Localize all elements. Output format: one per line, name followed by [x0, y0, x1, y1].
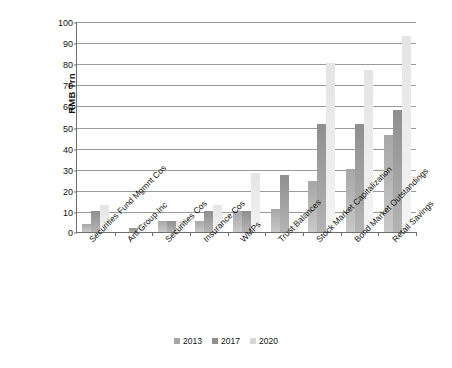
x-tick-mark [190, 232, 191, 236]
legend-swatch-icon [174, 338, 180, 344]
bar-2017 [355, 124, 364, 232]
bar-group [152, 22, 190, 232]
bar-group [265, 22, 303, 232]
bar-2013 [271, 209, 280, 232]
y-tick-label-50: 50 [63, 124, 73, 134]
x-tick-mark [416, 232, 417, 236]
x-axis-labels: Securities Fund Mgmnt CosAnt Group IncSe… [76, 237, 416, 327]
bar-2020 [326, 63, 335, 232]
bar-group [303, 22, 341, 232]
x-tick-mark [378, 232, 379, 236]
y-tick-label-90: 90 [63, 39, 73, 49]
y-tick-label-10: 10 [63, 208, 73, 218]
bar-2013 [82, 224, 91, 232]
legend-label: 2020 [259, 336, 278, 346]
bar-2013 [158, 221, 167, 232]
x-tick-mark [265, 232, 266, 236]
y-tick-label-100: 100 [58, 18, 73, 28]
legend-swatch-icon [250, 338, 256, 344]
legend-item-2017[interactable]: 2017 [212, 336, 240, 346]
bar-2020 [364, 70, 373, 232]
y-tick-mark-0 [74, 233, 77, 234]
y-tick-label-0: 0 [68, 228, 73, 238]
legend-item-2013[interactable]: 2013 [174, 336, 202, 346]
legend-label: 2013 [183, 336, 202, 346]
bar-2013 [195, 221, 204, 232]
x-tick-mark [228, 232, 229, 236]
legend-label: 2017 [221, 336, 240, 346]
x-tick-mark [152, 232, 153, 236]
y-tick-label-60: 60 [63, 102, 73, 112]
y-tick-label-70: 70 [63, 81, 73, 91]
bar-2017 [317, 124, 326, 232]
x-tick-mark [303, 232, 304, 236]
legend-swatch-icon [212, 338, 218, 344]
y-tick-label-20: 20 [63, 187, 73, 197]
y-tick-label-80: 80 [63, 60, 73, 70]
bar-2020 [402, 36, 411, 232]
x-tick-mark [341, 232, 342, 236]
x-tick-mark [115, 232, 116, 236]
bar-group [228, 22, 266, 232]
chart-legend: 201320172020 [0, 336, 452, 346]
y-tick-label-30: 30 [63, 166, 73, 176]
legend-item-2020[interactable]: 2020 [250, 336, 278, 346]
bar-chart: RMB Trn 0102030405060708090100 Securitie… [0, 0, 452, 368]
bar-2017 [280, 175, 289, 232]
bar-group [77, 22, 115, 232]
bar-group [190, 22, 228, 232]
y-tick-label-40: 40 [63, 145, 73, 155]
